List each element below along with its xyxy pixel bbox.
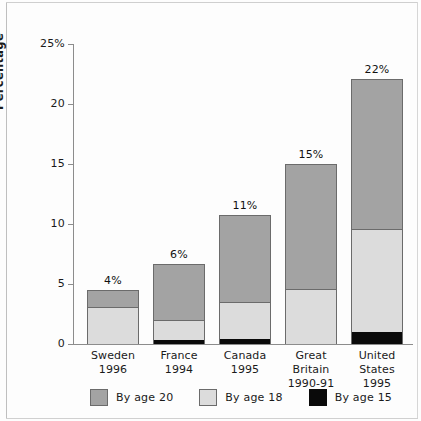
- plot-area: 25%20151050 4%6%11%15%22%: [73, 44, 415, 344]
- x-axis-country: United States: [359, 349, 396, 376]
- x-axis-country: Canada: [224, 349, 266, 362]
- x-axis-label: Sweden1996: [78, 349, 148, 377]
- segment-by-age-15: [154, 340, 204, 344]
- segment-by-age-18: [286, 290, 336, 344]
- x-axis-year: 1996: [78, 363, 148, 377]
- y-tick-label: 15: [5, 158, 65, 169]
- bar-value-label: 6%: [170, 249, 188, 260]
- y-tick-mark: [68, 164, 73, 165]
- x-axis-country: Great Britain: [293, 349, 330, 376]
- legend-item[interactable]: By age 18: [199, 389, 282, 406]
- segment-divider: [286, 289, 336, 290]
- figure-frame-bottom: [6, 418, 418, 419]
- bar-group[interactable]: 11%: [219, 44, 271, 344]
- segment-divider: [220, 302, 270, 303]
- chart-legend: By age 20By age 18By age 15: [90, 389, 392, 406]
- x-axis-year: 1994: [144, 363, 214, 377]
- segment-by-age-15: [352, 332, 402, 344]
- legend-swatch-icon: [199, 389, 217, 406]
- y-tick-label: 0: [5, 338, 65, 349]
- legend-label: By age 15: [335, 392, 392, 403]
- bar-value-label: 22%: [364, 64, 389, 75]
- x-axis-country: France: [160, 349, 197, 362]
- segment-by-age-18: [88, 308, 138, 344]
- y-tick-label: 10: [5, 218, 65, 229]
- stacked-bar[interactable]: [153, 264, 205, 344]
- y-tick-label: 20: [5, 98, 65, 109]
- segment-by-age-20: [286, 165, 336, 290]
- x-axis-label: United States1995: [342, 349, 412, 391]
- legend-swatch-icon: [309, 389, 327, 406]
- x-axis-label: France1994: [144, 349, 214, 377]
- y-tick-mark: [68, 224, 73, 225]
- y-tick-mark: [68, 104, 73, 105]
- segment-divider: [352, 229, 402, 230]
- legend-swatch-icon: [90, 389, 108, 406]
- segment-by-age-20: [220, 216, 270, 304]
- y-tick-mark: [68, 44, 73, 45]
- legend-item[interactable]: By age 20: [90, 389, 173, 406]
- bar-group[interactable]: 15%: [285, 44, 337, 344]
- stacked-bar[interactable]: [351, 79, 403, 344]
- segment-by-age-18: [220, 303, 270, 339]
- x-axis-country: Sweden: [91, 349, 135, 362]
- bar-group[interactable]: 22%: [351, 44, 403, 344]
- segment-by-age-18: [154, 321, 204, 340]
- stacked-bar[interactable]: [87, 290, 139, 344]
- segment-divider: [88, 307, 138, 308]
- bar-value-label: 15%: [298, 149, 323, 160]
- legend-item[interactable]: By age 15: [309, 389, 392, 406]
- legend-label: By age 18: [225, 392, 282, 403]
- y-tick-mark: [68, 284, 73, 285]
- segment-by-age-18: [352, 230, 402, 332]
- x-axis-year: 1995: [210, 363, 280, 377]
- y-tick-label: 25%: [5, 38, 65, 49]
- segment-by-age-15: [220, 339, 270, 344]
- x-axis-label: Canada1995: [210, 349, 280, 377]
- bar-group[interactable]: 6%: [153, 44, 205, 344]
- chart-figure: Percentage 25%20151050 4%6%11%15%22% Swe…: [0, 0, 421, 421]
- bar-value-label: 4%: [104, 275, 122, 286]
- y-axis-line: [73, 44, 74, 345]
- y-tick-mark: [68, 344, 73, 345]
- x-axis-line: [73, 344, 413, 345]
- figure-frame-top: [6, 2, 418, 3]
- x-axis-label: Great Britain1990-91: [276, 349, 346, 391]
- y-tick-label: 5: [5, 278, 65, 289]
- bar-group[interactable]: 4%: [87, 44, 139, 344]
- y-axis-tick-labels: 25%20151050: [5, 44, 65, 344]
- segment-by-age-20: [88, 291, 138, 308]
- segment-divider: [154, 320, 204, 321]
- x-axis-category-labels: Sweden1996France1994Canada1995Great Brit…: [73, 349, 418, 383]
- stacked-bar[interactable]: [285, 164, 337, 344]
- segment-by-age-20: [352, 80, 402, 230]
- stacked-bar[interactable]: [219, 215, 271, 344]
- segment-by-age-20: [154, 265, 204, 321]
- bar-value-label: 11%: [232, 200, 257, 211]
- legend-label: By age 20: [116, 392, 173, 403]
